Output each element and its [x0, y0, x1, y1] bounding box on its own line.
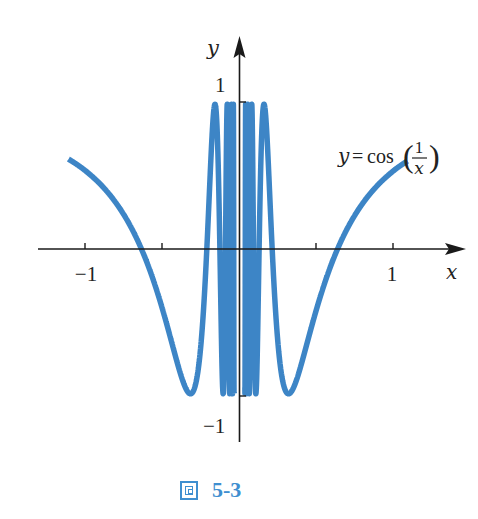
equation-left-paren: ( [403, 138, 414, 174]
chart-plot: −1 1 x y 1 −1 y = cos ( 1 x ) [0, 0, 478, 519]
equation-numerator: 1 [415, 138, 424, 157]
y-tick-label-neg1: −1 [203, 414, 225, 438]
x-tick-label-neg1: −1 [75, 262, 97, 286]
figure-icon [180, 481, 198, 500]
equation-equals: = [352, 145, 363, 167]
equation-lhs: y [337, 144, 350, 168]
x-axis-label: x [446, 260, 457, 284]
figure-number: 5-3 [212, 477, 241, 503]
equation-function: cos [367, 145, 394, 167]
figure-caption: 5-3 [180, 477, 241, 503]
equation-right-paren: ) [429, 138, 440, 174]
y-axis-label: y [206, 36, 220, 60]
equation-denominator: x [414, 158, 424, 178]
y-tick-label-pos1: 1 [215, 73, 226, 97]
x-tick-label-pos1: 1 [387, 262, 398, 286]
